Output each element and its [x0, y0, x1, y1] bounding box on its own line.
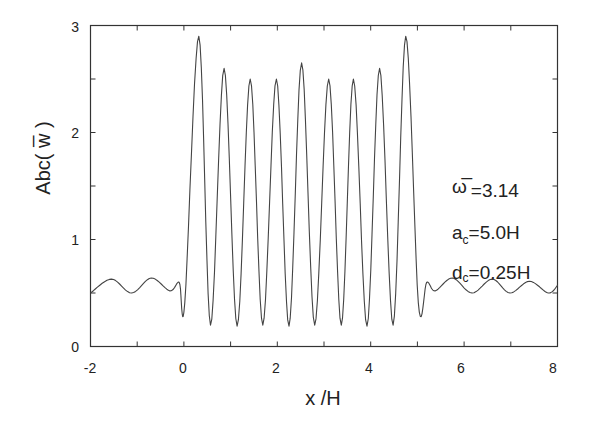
y-axis-title: Abc( w̅ ) [32, 121, 54, 194]
annotation-omega: ω̅=3.14 [452, 176, 519, 201]
annotation-dc: dc=0.25H [452, 262, 530, 285]
omega-value: =3.14 [471, 180, 520, 201]
y-tick-label: 1 [71, 232, 79, 248]
annotation-ac: ac=5.0H [452, 222, 520, 247]
x-tick-label: 6 [457, 360, 465, 376]
ac-symbol: a [452, 222, 463, 243]
dc-value: =0.25H [469, 262, 531, 283]
dc-symbol: d [452, 262, 463, 283]
x-tick-label: 4 [365, 360, 373, 376]
y-tick-label: 2 [71, 125, 79, 141]
line-chart: -2 0 2 4 6 8 0 1 2 3 x /H Abc( w̅ ) ω̅=3… [0, 0, 589, 425]
x-tick-label: 0 [179, 360, 187, 376]
x-tick-label: 2 [272, 360, 280, 376]
parameter-annotations: ω̅=3.14 ac=5.0H dc=0.25H [452, 176, 530, 285]
ac-value: =5.0H [469, 222, 520, 243]
x-tick-label: -2 [84, 360, 97, 376]
omega-symbol: ω̅ [452, 176, 473, 197]
y-tick-label: 3 [71, 19, 79, 35]
x-axis-title: x /H [305, 387, 341, 409]
y-tick-label: 0 [71, 339, 79, 355]
x-tick-label: 8 [549, 360, 557, 376]
